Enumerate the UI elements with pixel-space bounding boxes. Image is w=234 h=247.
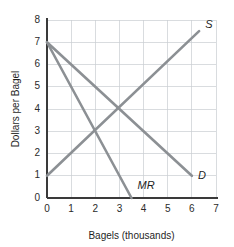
gridlines [47,20,216,198]
x-tick-label: 5 [165,203,171,214]
y-tick-label: 4 [34,103,40,114]
series-label-mr: MR [138,179,155,191]
series-label-d: D [198,169,206,181]
x-tick-label: 3 [117,203,123,214]
x-tick-label: 4 [141,203,147,214]
series-label-s: S [205,18,213,30]
x-tick-label: 7 [213,203,219,214]
y-tick-label: 7 [34,36,40,47]
y-tick-label: 2 [34,147,40,158]
series-lines [47,31,199,198]
chart-plot-area: SDMR 01234567 012345678 Bagels (thousand… [0,0,234,247]
series-line-mr [47,42,132,198]
x-tick-label: 6 [189,203,195,214]
y-tick-label: 5 [34,80,40,91]
x-axis-tick-labels: 01234567 [44,203,219,214]
y-tick-label: 6 [34,58,40,69]
y-tick-label: 3 [34,125,40,136]
axes [47,18,218,198]
x-tick-label: 1 [68,203,74,214]
y-axis-tick-labels: 012345678 [34,14,40,203]
y-axis-title: Dollars per Bagel [10,71,21,148]
series-labels: SDMR [138,18,214,190]
economics-supply-demand-chart: SDMR 01234567 012345678 Bagels (thousand… [0,0,234,247]
y-tick-label: 8 [34,14,40,25]
y-tick-label: 0 [34,192,40,203]
y-tick-label: 1 [34,169,40,180]
x-tick-label: 2 [93,203,99,214]
x-tick-label: 0 [44,203,50,214]
series-line-s [47,31,199,176]
x-axis-title: Bagels (thousands) [88,230,174,241]
